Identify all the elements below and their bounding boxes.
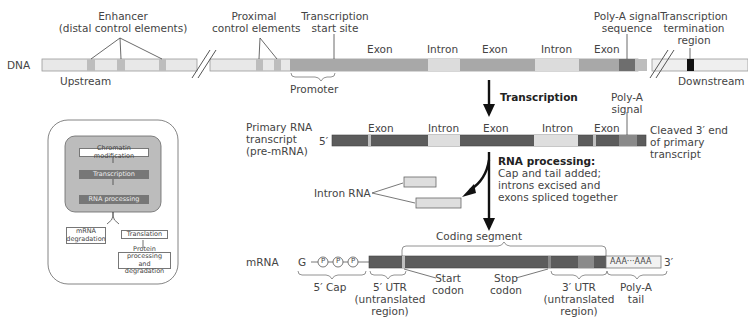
inset-transcription: Transcription [79, 170, 149, 179]
transcription-step-label: Transcription [500, 91, 578, 103]
start-codon-label: Start codon [430, 272, 466, 296]
promoter-label: Promoter [290, 83, 338, 95]
downstream-label: Downstream [678, 75, 745, 87]
mrna-three-prime: 3′ [664, 256, 673, 268]
enhancer-label: Enhancer (distal control elements) [58, 10, 188, 34]
phosphate-2: P [334, 258, 342, 266]
dna-exon-1: Exon [367, 43, 393, 55]
dna-exon-3: Exon [594, 43, 620, 55]
pre-mrna-exon-3: Exon [594, 122, 620, 134]
pre-mrna-exon-1: Exon [368, 122, 394, 134]
dna-intron-1: Intron [427, 43, 458, 55]
inset-protein-processing: Protein processing and degradation [118, 252, 171, 269]
mrna-strand [311, 256, 661, 268]
dna-intron-2: Intron [541, 43, 572, 55]
tss-label: Transcription start site [300, 10, 370, 34]
cap-g-label: G [298, 256, 306, 268]
inset-mrna-degradation: mRNA degradation [66, 227, 106, 244]
pre-mrna-intron-2: Intron [542, 122, 573, 134]
stop-codon-label: Stop codon [488, 272, 524, 296]
proximal-elements-label: Proximal control elements [212, 10, 296, 34]
dna-strand [42, 50, 748, 78]
pre-mrna-label: Primary RNA transcript (pre-mRNA) [246, 121, 312, 157]
utr5-label: 5′ UTR (untranslated region) [354, 281, 426, 317]
phosphate-3: P [349, 258, 357, 266]
rna-processing-arrow [462, 152, 495, 231]
cleaved-end-label: Cleaved 3′ end of primary transcript [650, 124, 728, 160]
polya-tail-label: Poly-A tail [614, 281, 658, 305]
promoter-bracket [291, 73, 335, 81]
mrna-label: mRNA [246, 256, 279, 268]
termination-label: Transcription termination region [658, 10, 730, 46]
inset-translation: Translation [121, 230, 168, 239]
pre-mrna-polya-signal: Poly-A signal [607, 91, 647, 115]
dna-label: DNA [7, 59, 30, 71]
upstream-label: Upstream [60, 75, 111, 87]
pre-mrna-intron-1: Intron [428, 122, 459, 134]
utr3-label: 3′ UTR (untranslated region) [543, 281, 615, 317]
coding-segment-label: Coding segment [436, 230, 522, 242]
polya-tail-text: AAA···AAA [610, 258, 651, 266]
coding-segment-bracket [402, 242, 606, 256]
intron-rna-label: Intron RNA [314, 187, 371, 199]
inset-chromatin-modification: Chromatin modification [79, 148, 149, 157]
transcription-arrow [483, 80, 495, 117]
five-cap-label: 5′ Cap [300, 281, 360, 293]
pre-mrna-five-prime: 5′ [319, 135, 328, 147]
dna-exon-2: Exon [482, 43, 508, 55]
mrna-brackets [298, 271, 667, 279]
inset-rna-processing: RNA processing [79, 195, 149, 204]
polya-signal-seq-label: Poly-A signal sequence [585, 10, 669, 34]
rna-processing-label: RNA processing: Cap and tail added; intr… [498, 155, 617, 203]
phosphate-1: P [319, 258, 327, 266]
intron-rna-pieces [372, 177, 461, 208]
pre-mrna-exon-2: Exon [483, 122, 509, 134]
